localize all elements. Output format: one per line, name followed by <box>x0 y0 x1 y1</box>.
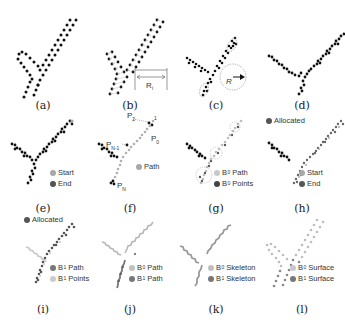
caption-k: (k) <box>173 303 259 316</box>
legend-b1-surface: B1Surface <box>290 273 334 284</box>
b1-points-marker-icon <box>50 276 56 282</box>
skeleton-k <box>173 212 259 304</box>
legend-allocated: Allocated <box>266 115 305 126</box>
b1-path-marker-icon <box>129 276 135 282</box>
b1-surface-marker-icon <box>290 276 296 282</box>
legend-h: Start End <box>299 167 323 189</box>
start-marker-icon <box>299 170 305 176</box>
legend-i: B1Path B1Points <box>50 262 89 284</box>
legend-end: End <box>50 178 74 189</box>
end-marker-icon <box>299 181 305 187</box>
legend-path: Path <box>136 161 159 172</box>
panel-f: P2 1 P0 PN-1 PN Path (f) <box>87 111 173 217</box>
legend-f: Path <box>136 161 159 172</box>
legend-b1-path: B1Path <box>50 262 89 273</box>
b0-skeleton-marker-icon <box>208 265 214 271</box>
allocated-marker-icon <box>24 217 30 223</box>
skeleton-e <box>0 111 86 203</box>
legend-e: Start End <box>50 167 74 189</box>
legend-end: End <box>299 178 323 189</box>
panel-i: Allocated B1Path B1Points (i) <box>0 212 86 318</box>
surface-l <box>259 212 345 304</box>
skeleton-d <box>259 8 345 100</box>
panel-j: B0Path B1Path (j) <box>87 212 173 318</box>
label-pn-1: PN-1 <box>106 140 119 151</box>
panel-e: Start End (e) <box>0 111 86 217</box>
b0-surface-marker-icon <box>290 265 296 271</box>
legend-b1-points: B1Points <box>50 273 89 284</box>
label-p1: 1 <box>154 115 157 121</box>
legend-b0-path: B0Path <box>129 262 163 273</box>
svg-text:i: i <box>152 85 153 91</box>
legend-h-top: Allocated <box>266 115 305 126</box>
b1-skeleton-marker-icon <box>208 276 214 282</box>
midpoints-c: R <box>173 8 259 100</box>
panel-h: Allocated Start End (h) <box>259 111 345 217</box>
b1-path-marker-icon <box>50 265 56 271</box>
caption-i: (i) <box>0 303 86 316</box>
b0-path-marker-icon <box>129 265 135 271</box>
legend-allocated: Allocated <box>24 214 63 225</box>
legend-b0-skeleton: B0Skeleton <box>208 262 255 273</box>
legend-b1-skeleton: B1Skeleton <box>208 273 255 284</box>
caption-j: (j) <box>87 303 173 316</box>
panel-b: R i (b) <box>87 8 173 114</box>
caption-l: (l) <box>259 303 345 316</box>
end-marker-icon <box>50 181 56 187</box>
legend-start: Start <box>50 167 74 178</box>
panel-a: (a) <box>0 8 86 114</box>
label-p0: P0 <box>151 134 159 145</box>
legend-l: B0Surface B1Surface <box>290 262 334 284</box>
legend-b0-path: B0Path <box>214 167 253 178</box>
panel-l: B0Surface B1Surface (l) <box>259 212 345 318</box>
legend-b0-points: B0Points <box>214 178 253 189</box>
legend-start: Start <box>299 167 323 178</box>
b0-path-g <box>173 111 259 203</box>
b0-points-marker-icon <box>214 181 220 187</box>
legend-i-top: Allocated <box>24 214 63 225</box>
panel-k: B0Skeleton B1Skeleton (k) <box>173 212 259 318</box>
panel-g: B0Path B0Points (g) <box>173 111 259 217</box>
surface-points-a <box>0 8 86 100</box>
label-p2: P2 <box>127 111 135 122</box>
panel-d: (d) <box>259 8 345 114</box>
path-f <box>87 111 173 203</box>
legend-b1-path: B1Path <box>129 273 163 284</box>
b1-path-i <box>0 212 86 304</box>
b0-b1-path-j <box>87 212 173 304</box>
legend-k: B0Skeleton B1Skeleton <box>208 262 255 284</box>
label-pn: PN <box>117 181 126 192</box>
panel-c: R (c) <box>173 8 259 114</box>
b0-path-marker-icon <box>214 170 220 176</box>
allocated-marker-icon <box>266 118 272 124</box>
surface-pairs-b: R i <box>87 8 173 100</box>
path-marker-icon <box>136 164 142 170</box>
svg-text:R: R <box>226 77 232 86</box>
start-marker-icon <box>50 170 56 176</box>
legend-b0-surface: B0Surface <box>290 262 334 273</box>
legend-g: B0Path B0Points <box>214 167 253 189</box>
legend-j: B0Path B1Path <box>129 262 163 284</box>
